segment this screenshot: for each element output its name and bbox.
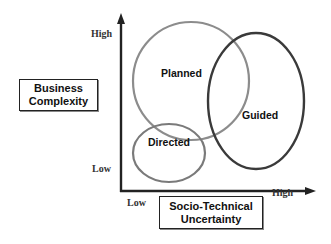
directed-ellipse — [133, 124, 205, 182]
x-axis-title-box: Socio-Technical Uncertainty — [159, 196, 263, 229]
guided-label: Guided — [242, 109, 278, 121]
x-axis-high-label: High — [272, 187, 294, 198]
planned-label: Planned — [161, 67, 202, 79]
y-axis-title-box: Business Complexity — [19, 79, 98, 111]
y-axis-arrowhead-icon — [117, 13, 125, 24]
y-axis-title-line1: Business — [34, 82, 83, 95]
directed-label: Directed — [148, 136, 190, 148]
planned-ellipse — [133, 22, 249, 140]
x-axis-title-line1: Socio-Technical — [169, 200, 253, 213]
y-axis-low-label: Low — [92, 163, 112, 174]
guided-ellipse — [208, 33, 304, 169]
x-axis-arrowhead-icon — [305, 187, 316, 195]
y-axis-high-label: High — [91, 28, 113, 39]
x-axis-title-line2: Uncertainty — [181, 213, 242, 226]
y-axis-title-line2: Complexity — [29, 95, 88, 108]
x-axis-low-label: Low — [127, 197, 147, 208]
